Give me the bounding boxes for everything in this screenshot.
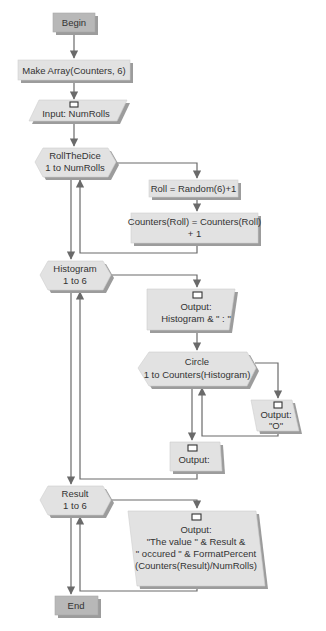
node-output-result: Output: "The value " & Result & " occure…	[128, 511, 268, 589]
node-label: (Counters(Result)/NumRolls)	[135, 560, 257, 571]
node-label: Make Array(Counters, 6)	[22, 65, 125, 76]
node-loop-rollthedice: RollTheDice 1 to NumRolls	[35, 148, 119, 180]
node-label: Begin	[62, 17, 86, 28]
node-label: Input: NumRolls	[42, 108, 110, 119]
node-output-o: Output: "O"	[251, 400, 302, 434]
node-label: 1 to NumRolls	[45, 162, 105, 173]
node-label: Histogram & " : "	[161, 313, 231, 324]
screen-icon	[188, 445, 197, 451]
node-label: "O"	[269, 420, 283, 431]
node-label: " occured " & FormatPercent	[136, 548, 257, 559]
screen-icon	[193, 292, 202, 298]
node-increment-counter: Counters(Roll) = Counters(Roll) + 1	[128, 213, 261, 246]
node-label: 1 to 6	[63, 275, 87, 286]
node-label: Counters(Roll) = Counters(Roll)	[128, 216, 261, 227]
node-input-numrolls: Input: NumRolls	[29, 100, 130, 124]
node-label: Histogram	[53, 263, 96, 274]
node-label: Circle	[185, 356, 209, 367]
node-label: Output:	[180, 524, 211, 535]
node-label: Output:	[178, 454, 209, 465]
node-begin: Begin	[53, 13, 98, 35]
node-output-histogram: Output: Histogram & " : "	[147, 289, 238, 333]
screen-icon	[274, 402, 282, 408]
node-label: End	[68, 600, 85, 611]
node-label: Output:	[260, 409, 291, 420]
edge-histogram-output	[110, 275, 197, 287]
node-label: RollTheDice	[49, 150, 101, 161]
node-label: + 1	[188, 228, 201, 239]
node-label: Result	[62, 488, 89, 499]
edge-rollthedice-roll	[116, 163, 197, 178]
node-label: 1 to 6	[63, 500, 87, 511]
flowchart: Begin Make Array(Counters, 6) Input: Num…	[0, 0, 326, 631]
node-assign-roll: Roll = Random(6)+1	[149, 180, 241, 200]
edge-result-outputresult	[110, 500, 197, 508]
node-label: Roll = Random(6)+1	[151, 183, 237, 194]
node-label: Output:	[180, 301, 211, 312]
node-label: 1 to Counters(Histogram)	[144, 369, 251, 380]
node-loop-circle: Circle 1 to Counters(Histogram)	[138, 352, 259, 389]
node-loop-histogram: Histogram 1 to 6	[40, 261, 114, 293]
node-label: "The value " & Result &	[147, 536, 246, 547]
edge-circle-outputo	[255, 363, 278, 398]
node-end: End	[55, 596, 101, 618]
node-output-newline: Output:	[170, 442, 225, 474]
node-make-array: Make Array(Counters, 6)	[18, 60, 133, 83]
node-loop-result: Result 1 to 6	[40, 486, 114, 518]
screen-icon	[70, 102, 78, 107]
screen-icon	[192, 514, 201, 520]
